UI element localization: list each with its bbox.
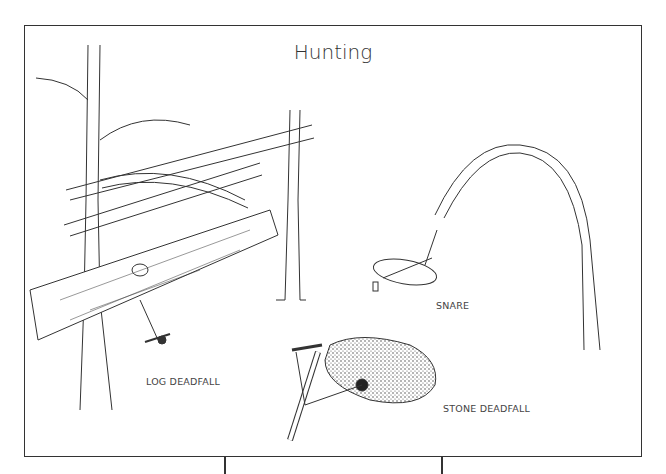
snare-drawing [371, 145, 600, 350]
stone-deadfall-label: STONE DEADFALL [443, 403, 530, 414]
snare-label: SNARE [436, 300, 469, 311]
stone-deadfall-drawing [290, 338, 436, 441]
log-deadfall-label: LOG DEADFALL [146, 376, 220, 387]
hunting-illustrations [0, 0, 666, 474]
log-deadfall-drawing [30, 45, 314, 410]
page-title: Hunting [0, 40, 666, 64]
